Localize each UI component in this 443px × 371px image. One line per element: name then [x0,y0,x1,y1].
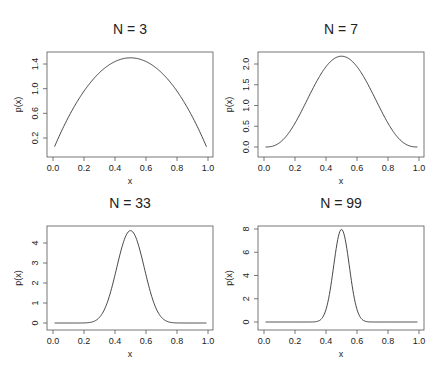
density-curve [55,231,207,323]
x-axis-label: x [339,349,344,359]
x-axis-label: x [339,176,344,186]
density-curve [266,229,418,322]
x-tick-label: 0.2 [78,163,91,173]
x-tick-label: 0.8 [171,336,184,346]
plot-frame [47,226,213,330]
y-tick-label: 2 [241,296,251,301]
x-tick-label: 1.0 [413,336,426,346]
y-axis-label: p(x) [13,270,23,286]
x-tick-label: 0.0 [258,336,271,346]
x-tick-label: 0.8 [382,163,395,173]
x-tick-label: 1.0 [202,163,215,173]
y-tick-label: 1.5 [241,78,251,91]
x-axis-label: x [128,349,133,359]
panel-title: N = 99 [320,195,362,211]
x-tick-label: 0.0 [47,163,60,173]
y-tick-label: 1.0 [30,82,40,95]
panel-n7: N = 7 x p(x) 0.00.20.40.60.81.00.00.51.0… [224,21,425,186]
density-curve [266,56,418,147]
y-tick-label: 0.2 [30,132,40,145]
y-axis-label: p(x) [224,97,234,113]
x-tick-label: 0.2 [289,336,302,346]
y-axis-label: p(x) [13,97,23,113]
x-tick-label: 0.2 [289,163,302,173]
x-axis-label: x [128,176,133,186]
x-tick-label: 0.0 [258,163,271,173]
density-curve [55,58,207,147]
y-tick-label: 4 [30,240,40,245]
y-tick-label: 0 [30,320,40,325]
x-tick-label: 0.4 [320,163,333,173]
x-tick-label: 0.4 [109,163,122,173]
panel-title: N = 3 [113,21,147,37]
x-tick-label: 0.8 [171,163,184,173]
y-tick-label: 4 [241,273,251,278]
y-tick-label: 0.0 [241,141,251,154]
y-tick-label: 2.0 [241,58,251,71]
x-tick-label: 1.0 [202,336,215,346]
x-tick-label: 0.4 [109,336,122,346]
plot-frame [47,52,213,157]
plot-frame [258,226,424,330]
panel-title: N = 33 [109,195,151,211]
y-tick-label: 1.0 [241,99,251,112]
y-tick-label: 6 [241,250,251,255]
x-tick-label: 0.2 [78,336,91,346]
y-tick-label: 0 [241,319,251,324]
x-tick-label: 0.0 [47,336,60,346]
x-tick-label: 0.8 [382,336,395,346]
x-tick-label: 1.0 [413,163,426,173]
y-tick-label: 1.4 [30,58,40,71]
x-tick-label: 0.6 [351,336,364,346]
y-tick-label: 1 [30,300,40,305]
y-tick-label: 0.6 [30,107,40,120]
y-tick-label: 0.5 [241,120,251,133]
x-tick-label: 0.4 [320,336,333,346]
y-axis-label: p(x) [224,270,234,286]
y-tick-label: 8 [241,226,251,231]
panel-title: N = 7 [324,21,358,37]
figure: N = 3 x p(x) 0.00.20.40.60.81.00.20.61.0… [0,0,443,371]
panel-n33: N = 33 x p(x) 0.00.20.40.60.81.001234 [13,195,214,359]
x-tick-label: 0.6 [140,336,153,346]
x-tick-label: 0.6 [351,163,364,173]
plot-frame [258,52,424,157]
panel-n3: N = 3 x p(x) 0.00.20.40.60.81.00.20.61.0… [13,21,214,186]
panel-n99: N = 99 x p(x) 0.00.20.40.60.81.002468 [224,195,425,359]
y-tick-label: 2 [30,280,40,285]
x-tick-label: 0.6 [140,163,153,173]
y-tick-label: 3 [30,260,40,265]
